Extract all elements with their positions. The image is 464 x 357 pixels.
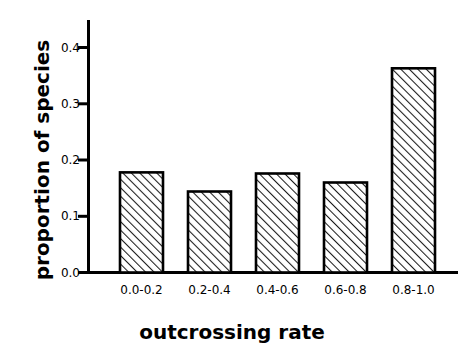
y-tick-label-wrap: 0.2 xyxy=(46,154,80,166)
x-tick-label: 0.2-0.4 xyxy=(175,283,245,297)
bar xyxy=(392,68,435,272)
y-tick-label-wrap: 0.0 xyxy=(46,267,80,279)
x-axis-title: outcrossing rate xyxy=(0,320,464,344)
chart-figure: proportion of species xyxy=(0,0,464,357)
plot-area: 0.0 0.1 0.2 0.3 0.4 0.0-0.2 0.2-0.4 0.4-… xyxy=(0,0,464,357)
y-tick-label-wrap: 0.1 xyxy=(46,210,80,222)
x-tick-label: 0.8-1.0 xyxy=(379,283,449,297)
y-tick-label: 0.0 xyxy=(46,267,80,279)
x-tick-label: 0.4-0.6 xyxy=(243,283,313,297)
bar xyxy=(188,192,231,273)
bar xyxy=(120,172,163,272)
y-tick-label-wrap: 0.4 xyxy=(46,42,80,54)
x-tick-label: 0.6-0.8 xyxy=(311,283,381,297)
x-tick-label: 0.0-0.2 xyxy=(107,283,177,297)
y-tick-label-wrap: 0.3 xyxy=(46,98,80,110)
bar xyxy=(256,174,299,273)
bar-series xyxy=(120,68,435,272)
y-tick-label: 0.4 xyxy=(46,42,80,54)
y-tick-label: 0.3 xyxy=(46,98,80,110)
bar xyxy=(324,183,367,273)
y-tick-label: 0.2 xyxy=(46,154,80,166)
y-tick-label: 0.1 xyxy=(46,210,80,222)
